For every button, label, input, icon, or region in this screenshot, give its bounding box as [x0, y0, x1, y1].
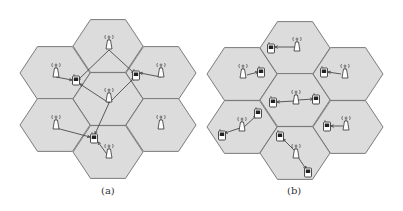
- mobile-phone-icon: [268, 42, 275, 53]
- mobile-phone-icon: [313, 93, 320, 104]
- mobile-phone-icon: [258, 66, 265, 77]
- mobile-phone-icon: [305, 166, 312, 177]
- panel-a-handoff-diagram: [20, 20, 196, 179]
- mobile-phone-icon: [73, 74, 80, 85]
- mobile-phone-icon: [324, 120, 331, 131]
- mobile-phone-icon: [133, 69, 140, 80]
- mobile-phone-icon: [321, 66, 328, 77]
- caption-a: (a): [101, 185, 115, 196]
- mobile-phone-icon: [277, 130, 284, 141]
- mobile-phone-icon: [219, 129, 226, 140]
- mobile-phone-icon: [91, 132, 98, 143]
- mobile-phone-icon: [270, 96, 277, 107]
- panel-b-cellular-diagram: [207, 22, 383, 180]
- caption-b: (b): [287, 185, 301, 196]
- cellular-network-figure: [0, 0, 403, 211]
- mobile-phone-icon: [255, 107, 262, 118]
